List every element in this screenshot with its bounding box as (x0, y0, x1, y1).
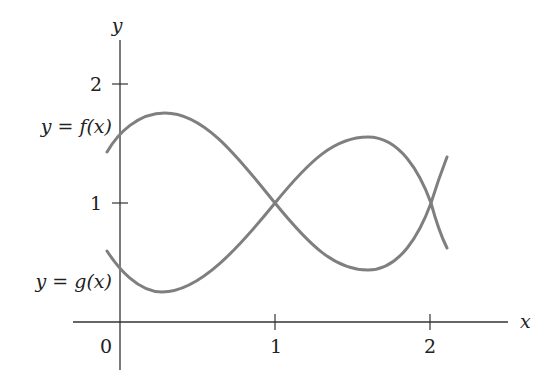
y-axis-label: y (111, 14, 123, 36)
y-tick-label-1: 1 (90, 192, 102, 214)
x-tick-label-1: 1 (270, 335, 282, 357)
y-tick-label-2: 2 (90, 73, 102, 95)
chart: y x 0 1 2 1 2 y = f(x) y = g(x) (0, 0, 551, 382)
curve-g (107, 137, 447, 292)
f-curve-label: y = f(x) (40, 115, 112, 137)
x-tick-label-2: 2 (424, 335, 436, 357)
x-axis-label: x (520, 310, 531, 332)
g-curve-label: y = g(x) (35, 270, 112, 292)
curve-f (107, 113, 447, 270)
origin-label: 0 (100, 335, 112, 357)
